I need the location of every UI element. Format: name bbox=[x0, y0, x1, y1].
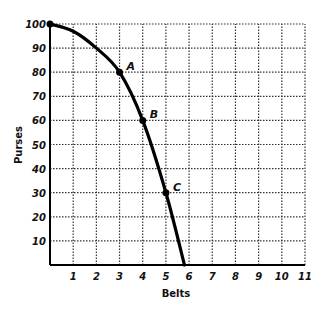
y-axis-label: Purses bbox=[13, 126, 24, 164]
x-tick-label: 2 bbox=[93, 271, 100, 282]
y-tick-label: 10 bbox=[32, 236, 46, 247]
x-tick-label: 7 bbox=[209, 271, 216, 282]
x-tick-label: 10 bbox=[275, 271, 289, 282]
x-axis-label: Belts bbox=[162, 288, 191, 299]
y-tick-label: 80 bbox=[32, 67, 46, 78]
y-tick-label: 20 bbox=[32, 212, 46, 223]
point-b-dot bbox=[139, 117, 146, 124]
point-c-dot bbox=[162, 189, 169, 196]
x-tick-label: 1 bbox=[70, 271, 77, 282]
x-tick-label: 9 bbox=[255, 271, 262, 282]
y-tick-label: 90 bbox=[32, 43, 46, 54]
x-tick-label: 3 bbox=[116, 271, 123, 282]
y-tick-label: 100 bbox=[25, 19, 46, 30]
point-b-label: B bbox=[150, 108, 158, 121]
start-point-dot bbox=[47, 21, 54, 28]
y-tick-label: 50 bbox=[32, 140, 46, 151]
y-tick-label: 70 bbox=[32, 91, 46, 102]
x-tick-label: 8 bbox=[232, 271, 239, 282]
ppf-chart: 1234567891011102030405060708090100 ABC B… bbox=[0, 0, 325, 311]
point-c-label: C bbox=[173, 181, 181, 194]
x-tick-label: 11 bbox=[298, 271, 312, 282]
x-tick-label: 5 bbox=[162, 271, 169, 282]
tick-labels: 1234567891011102030405060708090100 bbox=[25, 19, 312, 282]
x-tick-label: 4 bbox=[138, 271, 146, 282]
grid-lines bbox=[50, 24, 305, 265]
ppf-curve bbox=[47, 21, 185, 266]
y-tick-label: 40 bbox=[31, 164, 46, 175]
y-tick-label: 60 bbox=[32, 115, 46, 126]
point-a-dot bbox=[116, 69, 123, 76]
y-tick-label: 30 bbox=[32, 188, 46, 199]
point-a-label: A bbox=[126, 60, 136, 73]
x-tick-label: 6 bbox=[186, 271, 193, 282]
